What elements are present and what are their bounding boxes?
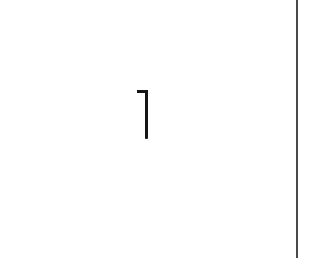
page-edge-divider <box>296 0 298 258</box>
page-number-glyph-stem <box>145 90 148 139</box>
page-number: 1 <box>137 90 149 140</box>
page: 1 <box>0 0 309 262</box>
